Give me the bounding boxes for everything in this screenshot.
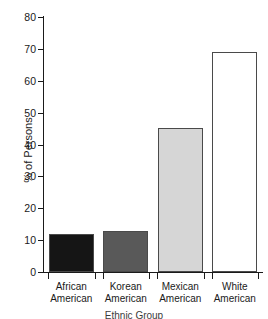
bar <box>49 234 94 272</box>
x-tick-mark <box>157 273 158 279</box>
x-tick-label-line: Mexican <box>153 281 208 293</box>
x-tick-label-line: Korean <box>99 281 154 293</box>
y-tick-label: 80 <box>12 12 36 23</box>
x-tick-mark <box>103 273 104 279</box>
y-tick-label: 0 <box>12 267 36 278</box>
x-tick-mark <box>149 273 150 279</box>
y-tick-label: 20 <box>12 203 36 214</box>
x-tick-mark <box>258 273 259 279</box>
x-tick-label: MexicanAmerican <box>153 281 208 304</box>
x-tick-label-line: White <box>208 281 263 293</box>
x-tick-mark <box>95 273 96 279</box>
x-tick-label-line: American <box>153 293 208 305</box>
x-tick-label: WhiteAmerican <box>208 281 263 304</box>
bar-chart: % of Persons 01020304050607080 AfricanAm… <box>0 0 268 319</box>
bar <box>158 128 203 272</box>
bar <box>212 52 257 272</box>
y-tick-label: 70 <box>12 44 36 55</box>
x-tick-mark <box>48 273 49 279</box>
y-tick-label: 50 <box>12 107 36 118</box>
y-tick-label: 60 <box>12 76 36 87</box>
bar <box>103 231 148 272</box>
y-tick-label: 10 <box>12 235 36 246</box>
x-tick-label-line: American <box>99 293 154 305</box>
y-tick-label: 30 <box>12 171 36 182</box>
y-tick-label: 40 <box>12 139 36 150</box>
x-tick-mark <box>204 273 205 279</box>
x-tick-label-line: American <box>44 293 99 305</box>
x-axis-line <box>43 272 263 273</box>
x-tick-label-line: American <box>208 293 263 305</box>
x-tick-label: AfricanAmerican <box>44 281 99 304</box>
chart-caption: Ethnic Group <box>0 310 268 319</box>
x-tick-label: KoreanAmerican <box>99 281 154 304</box>
plot-area <box>44 17 262 272</box>
x-tick-mark <box>212 273 213 279</box>
y-tick-mark <box>38 272 44 273</box>
x-tick-label-line: African <box>44 281 99 293</box>
